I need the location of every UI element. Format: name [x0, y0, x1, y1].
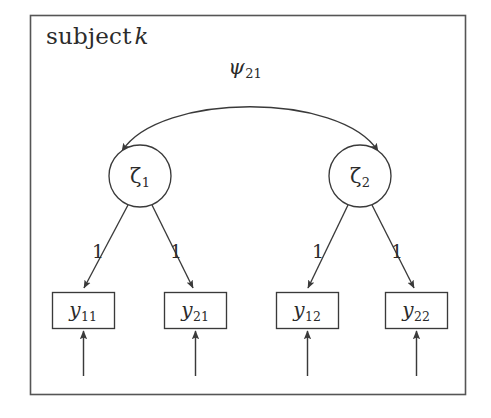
observed-subscript-y-11: 11 — [80, 308, 96, 323]
observed-symbol-y-12: y — [293, 298, 304, 322]
covariance-subscript: 21 — [245, 65, 262, 80]
observed-label-y-22: y22 — [402, 300, 430, 323]
panel-title-index: k — [132, 23, 149, 49]
observed-symbol-y-11: y — [69, 298, 80, 322]
observed-subscript-y-22: 22 — [413, 308, 429, 323]
path-diagram-figure: subjectk ψ21 ζ1 ζ2 y11 y21 y12 y22 1 1 1… — [0, 0, 491, 418]
observed-label-y-11: y11 — [69, 300, 97, 323]
panel-title-prefix: subject — [46, 23, 132, 49]
observed-subscript-y-12: 12 — [304, 308, 320, 323]
latent-symbol-zeta-2: ζ — [350, 164, 361, 188]
loading-label-zeta1-y21: 1 — [170, 242, 182, 261]
observed-symbol-y-21: y — [181, 298, 192, 322]
latent-label-zeta-2: ζ2 — [350, 166, 370, 189]
panel-title: subjectk — [46, 25, 149, 48]
covariance-label: ψ21 — [228, 57, 262, 80]
observed-label-y-12: y12 — [293, 300, 321, 323]
latent-label-zeta-1: ζ1 — [130, 166, 150, 189]
covariance-symbol: ψ — [228, 55, 244, 79]
observed-subscript-y-21: 21 — [192, 308, 208, 323]
loading-label-zeta2-y12: 1 — [312, 242, 324, 261]
latent-subscript-zeta-1: 1 — [141, 174, 150, 189]
loading-label-zeta2-y22: 1 — [391, 242, 403, 261]
latent-subscript-zeta-2: 2 — [361, 174, 370, 189]
latent-symbol-zeta-1: ζ — [130, 164, 141, 188]
observed-symbol-y-22: y — [402, 298, 413, 322]
observed-label-y-21: y21 — [181, 300, 209, 323]
loading-label-zeta1-y11: 1 — [92, 242, 104, 261]
